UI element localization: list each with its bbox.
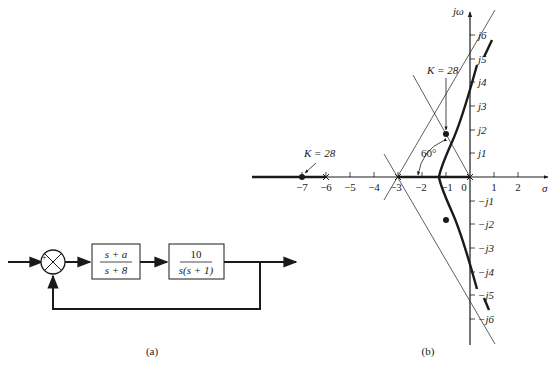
figure-canvas: + − s + a s + 8 10 s(s + 1) (a) xyxy=(0,0,554,368)
svg-text:j3: j3 xyxy=(476,100,487,112)
svg-text:2: 2 xyxy=(515,181,521,193)
caption-b: (b) xyxy=(422,345,435,358)
k-label-real: K = 28 xyxy=(303,147,336,159)
complex-closed-loop-pole-lower xyxy=(443,217,449,223)
plant-numerator: 10 xyxy=(191,248,203,260)
svg-text:−5: −5 xyxy=(344,181,356,193)
svg-text:−j3: −j3 xyxy=(478,242,494,254)
branch-extension-upper xyxy=(484,40,492,57)
complex-closed-loop-pole-upper xyxy=(443,131,449,137)
svg-text:−7: −7 xyxy=(296,181,308,193)
compensator-numerator: s + a xyxy=(105,248,128,260)
jw-label: jω xyxy=(451,5,464,17)
real-closed-loop-pole xyxy=(299,174,305,180)
caption-a: (a) xyxy=(146,345,159,358)
k-arrow-real xyxy=(305,163,316,173)
svg-text:−j2: −j2 xyxy=(478,218,494,230)
angle-label: 60° xyxy=(421,147,436,159)
k-label-complex: K = 28 xyxy=(426,64,459,76)
svg-text:j1: j1 xyxy=(476,147,487,159)
svg-text:j2: j2 xyxy=(476,124,487,136)
svg-text:1: 1 xyxy=(491,181,497,193)
x-tick-labels: −7 −6 −5 −4 −3 −2 −1 0 1 2 xyxy=(296,181,521,193)
plant-denominator: s(s + 1) xyxy=(179,264,214,277)
svg-text:−6: −6 xyxy=(320,181,332,193)
compensator-block: s + a s + 8 xyxy=(92,244,140,279)
svg-text:j4: j4 xyxy=(476,76,487,88)
block-diagram: + − s + a s + 8 10 s(s + 1) (a) xyxy=(8,244,296,358)
feedback-path xyxy=(53,262,260,309)
svg-text:−2: −2 xyxy=(415,181,427,193)
sigma-label: σ xyxy=(542,182,548,194)
plus-sign: + xyxy=(42,253,47,262)
compensator-denominator: s + 8 xyxy=(105,264,128,276)
svg-text:−4: −4 xyxy=(368,181,380,193)
svg-text:0: 0 xyxy=(461,181,467,193)
plant-block: 10 s(s + 1) xyxy=(169,244,224,279)
svg-text:−j1: −j1 xyxy=(478,195,494,207)
summing-junction: + − xyxy=(41,250,65,278)
root-locus-plot: −7 −6 −5 −4 −3 −2 −1 0 1 2 σ jω j1 j2 j3… xyxy=(252,5,548,358)
svg-text:−j4: −j4 xyxy=(478,266,494,278)
svg-text:−j5: −j5 xyxy=(478,289,494,301)
